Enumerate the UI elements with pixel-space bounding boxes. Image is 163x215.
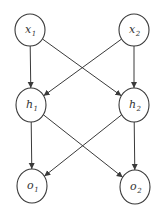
- node-h1: h1: [16, 88, 46, 122]
- edge-x1-h1: [30, 46, 31, 88]
- node-x2: x2: [119, 14, 149, 46]
- nodes: x1x2h1h2o1o2: [15, 14, 150, 204]
- node-o1: o1: [17, 169, 47, 203]
- node-h2: h2: [119, 88, 149, 122]
- node-x1: x1: [15, 14, 45, 46]
- edge-h1-o1: [31, 122, 32, 169]
- edge-h2-o2: [134, 122, 135, 170]
- node-o2: o2: [120, 170, 150, 204]
- neural-network-diagram: x1x2h1h2o1o2: [0, 0, 163, 215]
